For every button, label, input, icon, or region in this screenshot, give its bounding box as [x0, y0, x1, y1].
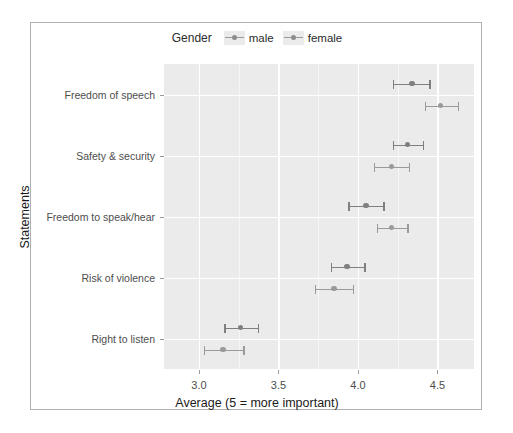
- y-axis-title: Statements: [18, 185, 32, 248]
- x-tick-mark: [437, 370, 438, 374]
- x-axis-title: Average (5 = more important): [31, 396, 483, 410]
- data-point[interactable]: [409, 81, 414, 86]
- gridline-horizontal: [164, 339, 474, 340]
- data-point[interactable]: [363, 203, 368, 208]
- y-tick-label: Safety & security: [76, 150, 155, 162]
- y-tick-mark: [160, 339, 164, 340]
- y-tick-label: Freedom of speech: [65, 89, 155, 101]
- plot-panel: [164, 64, 474, 369]
- y-tick-label: Freedom to speak/hear: [46, 211, 155, 223]
- error-bar-cap: [423, 141, 424, 150]
- error-bar-cap: [243, 346, 244, 355]
- y-tick-mark: [160, 156, 164, 157]
- error-bar-cap: [374, 163, 375, 172]
- gridline-horizontal: [164, 217, 474, 218]
- x-tick-mark: [278, 370, 279, 374]
- legend-key-female[interactable]: female: [283, 31, 343, 45]
- legend-label-male: male: [249, 32, 274, 44]
- error-bar-cap: [425, 102, 426, 111]
- data-point[interactable]: [438, 103, 443, 108]
- error-bar-cap: [224, 324, 225, 333]
- error-bar-cap: [407, 224, 408, 233]
- error-bar-cap: [409, 163, 410, 172]
- data-point[interactable]: [389, 225, 394, 230]
- legend-key-male[interactable]: male: [224, 31, 274, 45]
- gridline-horizontal: [164, 95, 474, 96]
- x-tick-label: 3.5: [271, 379, 286, 391]
- error-bar-cap: [377, 224, 378, 233]
- error-bar-cap: [383, 202, 384, 211]
- x-tick-mark: [358, 370, 359, 374]
- x-tick-label: 3.0: [191, 379, 206, 391]
- data-point[interactable]: [331, 286, 336, 291]
- error-bar-cap: [331, 263, 332, 272]
- gridline-horizontal: [164, 278, 474, 279]
- error-bar-cap: [353, 285, 354, 294]
- chart-legend: Gender male female: [31, 31, 483, 45]
- x-tick-mark: [199, 370, 200, 374]
- y-tick-mark: [160, 217, 164, 218]
- data-point[interactable]: [344, 264, 349, 269]
- error-bar-cap: [458, 102, 459, 111]
- legend-marker-female-icon: [283, 31, 304, 45]
- data-point[interactable]: [220, 347, 225, 352]
- data-point[interactable]: [405, 142, 410, 147]
- error-bar-cap: [348, 202, 349, 211]
- error-bar-cap: [315, 285, 316, 294]
- error-bar-cap: [393, 80, 394, 89]
- x-tick-label: 4.5: [430, 379, 445, 391]
- y-tick-label: Right to listen: [91, 333, 155, 345]
- error-bar-cap: [258, 324, 259, 333]
- legend-title: Gender: [172, 31, 212, 45]
- error-bar-cap: [393, 141, 394, 150]
- y-tick-label: Risk of violence: [81, 272, 155, 284]
- legend-label-female: female: [308, 32, 343, 44]
- legend-marker-male-icon: [224, 31, 245, 45]
- x-tick-label: 4.0: [350, 379, 365, 391]
- data-point[interactable]: [238, 325, 243, 330]
- gridline-horizontal: [164, 156, 474, 157]
- plot-frame: Gender male female Freedom of speechSafe…: [30, 22, 482, 410]
- y-tick-mark: [160, 95, 164, 96]
- error-bar-cap: [429, 80, 430, 89]
- error-bar-cap: [364, 263, 365, 272]
- data-point[interactable]: [389, 164, 394, 169]
- error-bar-cap: [204, 346, 205, 355]
- y-tick-mark: [160, 278, 164, 279]
